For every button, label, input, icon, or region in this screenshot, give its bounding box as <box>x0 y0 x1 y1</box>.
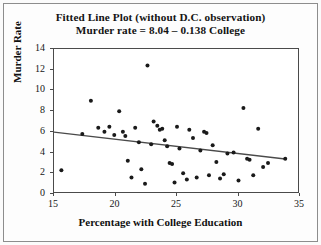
data-point <box>191 136 195 140</box>
data-point <box>175 125 179 129</box>
data-point <box>117 109 121 113</box>
data-point <box>251 173 255 177</box>
fitted-line-plot-figure: Fitted Line Plot (without D.C. observati… <box>0 0 321 245</box>
data-point <box>123 134 127 138</box>
data-point <box>187 128 191 132</box>
data-point <box>222 172 226 176</box>
data-point <box>102 130 106 134</box>
x-tick-mark <box>238 193 239 196</box>
data-point <box>112 133 116 137</box>
x-tick-label: 35 <box>288 198 310 209</box>
data-point <box>126 159 130 163</box>
y-axis-label: Murder Rate <box>11 2 23 102</box>
data-point <box>207 173 211 177</box>
scatter-plot-svg <box>54 49 300 194</box>
x-tick-mark <box>176 193 177 196</box>
data-point <box>218 176 222 180</box>
x-tick-label: 15 <box>42 198 64 209</box>
data-point <box>232 151 236 155</box>
y-tick-mark <box>50 172 53 173</box>
x-tick-label: 25 <box>165 198 187 209</box>
data-point <box>96 126 100 130</box>
fit-line <box>54 132 285 159</box>
data-point <box>80 132 84 136</box>
y-tick-label: 2 <box>27 166 45 177</box>
y-tick-label: 0 <box>27 187 45 198</box>
x-axis-label: Percentage with College Education <box>0 216 321 228</box>
y-tick-label: 12 <box>27 63 45 74</box>
data-point <box>181 171 185 175</box>
data-point <box>248 158 252 162</box>
chart-title-line-2: Murder rate = 8.04 – 0.138 College <box>0 24 321 37</box>
y-tick-label: 6 <box>27 125 45 136</box>
data-point <box>173 181 177 185</box>
data-point <box>211 143 215 147</box>
y-tick-mark <box>50 110 53 111</box>
data-point <box>177 146 181 150</box>
data-point <box>283 157 287 161</box>
y-tick-label: 10 <box>27 83 45 94</box>
y-tick-mark <box>50 152 53 153</box>
plot-area <box>53 48 299 193</box>
data-point <box>241 106 245 110</box>
figure-page: Fitted Line Plot (without D.C. observati… <box>0 0 321 245</box>
data-point <box>163 138 167 142</box>
y-tick-label: 14 <box>27 42 45 53</box>
data-point <box>266 161 270 165</box>
data-point <box>145 64 149 68</box>
data-point <box>139 167 143 171</box>
data-point <box>198 149 202 153</box>
data-point <box>143 182 147 186</box>
data-point <box>59 168 63 172</box>
data-point <box>121 130 125 134</box>
data-point <box>170 162 174 166</box>
data-point <box>149 142 153 146</box>
x-tick-mark <box>115 193 116 196</box>
y-tick-mark <box>50 69 53 70</box>
x-tick-label: 20 <box>104 198 126 209</box>
y-tick-mark <box>50 131 53 132</box>
chart-title-line-1: Fitted Line Plot (without D.C. observati… <box>0 11 321 24</box>
data-point <box>152 120 156 124</box>
chart-title: Fitted Line Plot (without D.C. observati… <box>0 11 321 37</box>
data-point <box>237 179 241 183</box>
data-points-group <box>59 64 287 186</box>
regression-fit-line <box>54 132 285 159</box>
data-point <box>133 126 137 130</box>
y-tick-label: 4 <box>27 146 45 157</box>
data-point <box>129 175 133 179</box>
y-tick-label: 8 <box>27 104 45 115</box>
data-point <box>155 124 159 128</box>
data-point <box>160 127 164 131</box>
data-point <box>256 127 260 131</box>
y-tick-mark <box>50 89 53 90</box>
data-point <box>137 140 141 144</box>
x-tick-mark <box>53 193 54 196</box>
x-tick-label: 30 <box>227 198 249 209</box>
data-point <box>107 125 111 129</box>
data-point <box>185 178 189 182</box>
data-point <box>89 99 93 103</box>
x-tick-mark <box>299 193 300 196</box>
data-point <box>225 152 229 156</box>
data-point <box>205 131 209 135</box>
data-point <box>165 144 169 148</box>
y-tick-mark <box>50 48 53 49</box>
data-point <box>195 175 199 179</box>
data-point <box>214 160 218 164</box>
data-point <box>261 165 265 169</box>
